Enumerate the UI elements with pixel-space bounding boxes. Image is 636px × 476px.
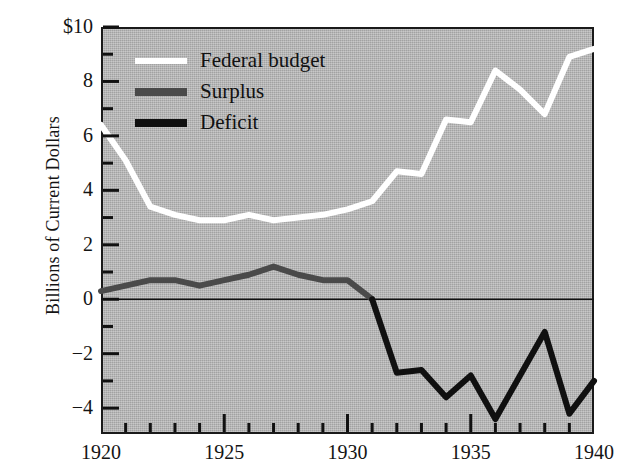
y-tick-label: 0 [35,288,93,308]
y-tick-label: $10 [35,16,93,36]
legend-label-federal-budget: Federal budget [200,49,325,72]
series-line-deficit [372,299,594,419]
y-tick-label: −4 [35,397,93,417]
legend-swatch-federal-budget [135,58,187,64]
x-tick-label: 1935 [431,442,511,462]
legend-item-federal-budget: Federal budget [135,45,415,76]
legend-item-surplus: Surplus [135,76,415,107]
y-axis-title: Billions of Current Dollars [43,66,64,366]
y-tick-label: 4 [35,179,93,199]
y-tick-label: 8 [35,70,93,90]
legend-label-deficit: Deficit [200,111,258,134]
legend-label-surplus: Surplus [200,80,264,103]
legend-swatch-surplus [135,88,187,96]
x-tick-label: 1940 [554,442,634,462]
y-tick-label: −2 [35,343,93,363]
x-tick-label: 1925 [184,442,264,462]
y-tick-label: 6 [35,125,93,145]
legend-swatch-deficit [135,119,187,127]
legend-item-deficit: Deficit [135,107,415,138]
chart-figure: Billions of Current Dollars $1086420−2−4… [0,0,636,476]
x-tick-label: 1930 [308,442,388,462]
y-tick-label: 2 [35,234,93,254]
series-line-surplus [101,267,372,300]
x-tick-label: 1920 [61,442,141,462]
chart-legend: Federal budget Surplus Deficit [135,45,415,138]
